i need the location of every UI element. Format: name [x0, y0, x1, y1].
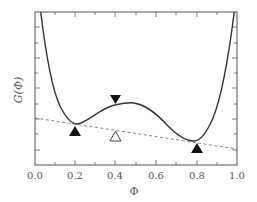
x-tick-labels: 0.0 0.2 0.4 0.6 0.8 1.0 — [27, 170, 245, 181]
x-tick-label: 0.0 — [27, 170, 43, 181]
hollow-triangle-up-marker — [110, 131, 121, 141]
filled-triangle-up-marker — [69, 126, 81, 136]
x-tick-label: 0.2 — [67, 170, 83, 181]
plot-frame — [35, 12, 237, 165]
free-energy-curve — [40, 6, 235, 141]
x-tick-label: 1.0 — [229, 170, 245, 181]
filled-triangle-down-marker — [110, 95, 121, 104]
chart-svg: 0.0 0.2 0.4 0.6 0.8 1.0 Φ G(Φ) — [0, 0, 257, 202]
x-axis-label: Φ — [129, 185, 138, 198]
x-tick-label: 0.8 — [189, 170, 205, 181]
x-tick-label: 0.4 — [107, 170, 123, 181]
y-axis-label: G(Φ) — [12, 77, 25, 103]
filled-triangle-up-marker — [191, 143, 203, 153]
x-tick-label: 0.6 — [148, 170, 164, 181]
common-tangent-line — [35, 118, 237, 149]
